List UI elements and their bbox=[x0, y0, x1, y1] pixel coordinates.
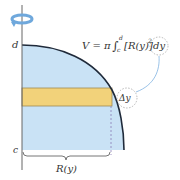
formula-exponent: 2 bbox=[147, 37, 152, 44]
connector-arc bbox=[136, 56, 159, 92]
formula-differential: dy bbox=[153, 40, 165, 51]
formula-upper: d bbox=[119, 34, 123, 41]
label-c: c bbox=[13, 145, 18, 155]
formula-lhs: V = π bbox=[82, 40, 111, 51]
label-radius: R(y) bbox=[55, 163, 77, 174]
label-d: d bbox=[12, 39, 18, 50]
formula-lower: c bbox=[117, 46, 121, 53]
radius-brace bbox=[23, 152, 110, 160]
slab-rect bbox=[22, 88, 112, 106]
volume-diagram: d c R(y) Δy V = π ∫ d c [R(y)] 2 dy bbox=[0, 0, 180, 180]
label-delta-y: Δy bbox=[118, 93, 131, 103]
